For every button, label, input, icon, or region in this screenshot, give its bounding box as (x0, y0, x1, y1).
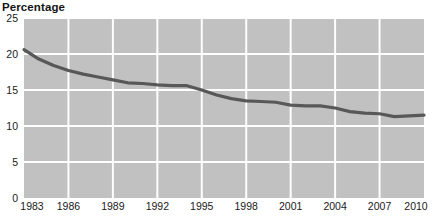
y-tick-label: 20 (0, 49, 18, 59)
x-tick-label: 1998 (229, 201, 263, 212)
x-tick-label: 2001 (274, 201, 308, 212)
x-tick-label: 1986 (51, 201, 85, 212)
y-tick-label: 15 (0, 85, 18, 95)
x-tick-label: 2004 (318, 201, 352, 212)
x-tick-label: 2007 (363, 201, 397, 212)
x-tick-label: 1989 (96, 201, 130, 212)
y-tick-label: 10 (0, 121, 18, 131)
plot-background (24, 18, 424, 198)
y-tick-label: 25 (0, 13, 18, 23)
x-tick-label: 1992 (140, 201, 174, 212)
percentage-line-chart: Percentage 2520151050 198319861989199219… (0, 0, 441, 222)
x-tick-label: 1983 (15, 201, 49, 212)
plot-area (0, 0, 441, 222)
x-tick-label: 1995 (185, 201, 219, 212)
y-tick-label: 5 (0, 157, 18, 167)
x-tick-label: 2010 (399, 201, 433, 212)
